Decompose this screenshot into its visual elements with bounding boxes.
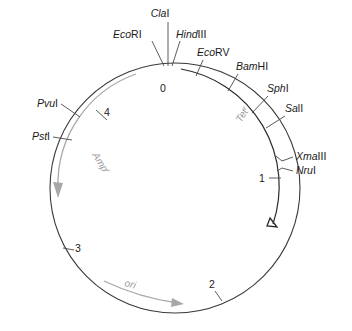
enzyme-label-hindiii: HindIII <box>176 28 206 40</box>
leader-nrui <box>277 168 293 171</box>
enzyme-label-psti: PstI <box>32 130 50 142</box>
tet-arrowhead <box>267 218 277 227</box>
enzyme-label-sphi: SphI <box>267 82 289 94</box>
coordinate-tick-3: 3 <box>75 242 81 254</box>
ori-gene-arrow <box>104 281 178 303</box>
plasmid-diagram: ClaI EcoRI HindIII EcoRV BamHI SphI SalI… <box>0 0 352 331</box>
gene-label-ampr: Ampr <box>90 149 113 176</box>
plasmid-backbone-circle <box>50 63 300 313</box>
tickmark-3 <box>63 248 74 250</box>
tet-region-inner-arc <box>181 69 279 224</box>
ori-arrowhead <box>171 298 184 307</box>
leader-psti <box>53 137 72 140</box>
gene-label-ori: ori <box>124 277 138 291</box>
coordinate-tick-2: 2 <box>209 278 215 290</box>
leader-xmaiii <box>276 156 293 161</box>
coordinate-tick-0: 0 <box>160 82 166 94</box>
tickmark-2 <box>215 291 222 301</box>
ampr-arrowhead <box>53 182 63 198</box>
leader-sali <box>266 116 285 128</box>
enzyme-label-ecorv: EcoRV <box>197 46 230 58</box>
ampr-gene-arrow <box>58 74 136 188</box>
enzyme-label-sali: SalI <box>285 102 303 114</box>
enzyme-label-clai: ClaI <box>151 7 170 19</box>
coordinate-tick-4: 4 <box>104 106 110 118</box>
enzyme-label-bamhi: BamHI <box>236 60 268 72</box>
leader-hindiii <box>172 41 180 66</box>
enzyme-label-xmaiii: XmaIII <box>295 150 326 162</box>
coordinate-tick-1: 1 <box>259 172 265 184</box>
plasmid-map-figure: ClaI EcoRI HindIII EcoRV BamHI SphI SalI… <box>0 0 352 331</box>
enzyme-label-ecori: EcoRI <box>113 28 142 40</box>
enzyme-label-pvui: PvuI <box>37 97 58 109</box>
leader-sphi <box>252 96 268 113</box>
leader-bamhi <box>228 74 238 91</box>
leader-ecori <box>152 41 164 66</box>
enzyme-label-nrui: NruI <box>296 164 316 176</box>
